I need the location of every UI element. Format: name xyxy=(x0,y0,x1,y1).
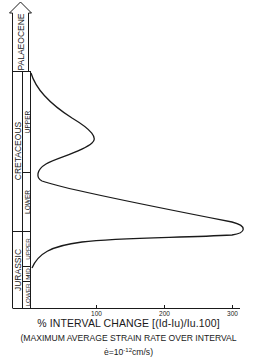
strain-rate-exponent: -12 xyxy=(123,347,132,353)
label-jurassic: JURASSIC xyxy=(13,249,23,291)
label-cretaceous-upper: UPPER xyxy=(24,111,31,134)
x-axis-subtitle: (MAXIMUM AVERAGE STRAIN RATE OVER INTERV… xyxy=(0,333,257,343)
strain-rate-prefix: ė=10 xyxy=(104,347,123,357)
label-cretaceous: CRETACEOUS xyxy=(13,121,23,180)
x-axis-title: % INTERVAL CHANGE [(Id-Iu)/Iu.100] xyxy=(0,317,257,329)
x-tick-label-300: 300 xyxy=(227,310,238,317)
strain-rate-note: ė=10-12cm/s) xyxy=(0,347,257,357)
interval-change-curve xyxy=(31,73,243,268)
label-jurassic-upper: UPPER xyxy=(24,238,31,260)
label-cretaceous-lower: LOWER xyxy=(24,190,31,214)
x-tick-label-200: 200 xyxy=(159,310,170,317)
label-jurassic-mid: MID xyxy=(24,268,31,280)
strain-rate-suffix: cm/s) xyxy=(132,347,153,357)
strain-rate-chart: PALAEOCENE CRETACEOUS UPPER LOWER JURASS… xyxy=(0,0,257,362)
label-jurassic-lower: LOWER xyxy=(24,283,31,306)
label-palaeocene: PALAEOCENE xyxy=(16,13,26,70)
x-tick-label-100: 100 xyxy=(91,310,102,317)
